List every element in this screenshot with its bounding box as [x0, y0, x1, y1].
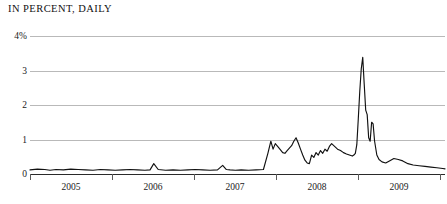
x-tick-label-2009: 2009	[369, 183, 429, 193]
x-tick-2005	[30, 174, 31, 180]
x-tick-2008	[276, 174, 277, 180]
y-tick-label-2: 2	[3, 101, 27, 111]
x-tick-2009	[358, 174, 359, 180]
x-tick-2007	[194, 174, 195, 180]
y-tick-label-1: 1	[3, 136, 27, 146]
axis-baseline	[30, 174, 445, 175]
y-tick-label-3: 3	[3, 67, 27, 77]
y-tick-label-0: 0	[3, 170, 27, 180]
series-line-rate	[30, 36, 445, 174]
x-tick-label-2005: 2005	[41, 183, 101, 193]
chart-container: IN PERCENT, DAILY 4% 3 2 1 0 2005 2006 2…	[0, 0, 447, 204]
x-tick-label-2008: 2008	[287, 183, 347, 193]
x-tick-label-2006: 2006	[123, 183, 183, 193]
x-tick-2006	[112, 174, 113, 180]
x-tick-2010	[440, 174, 441, 180]
x-tick-label-2007: 2007	[205, 183, 265, 193]
y-tick-label-4: 4%	[3, 32, 27, 42]
plot-area	[30, 36, 445, 174]
y-axis: 4% 3 2 1 0	[0, 0, 27, 204]
